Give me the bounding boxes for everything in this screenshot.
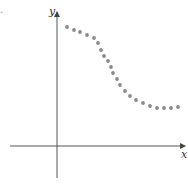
data-point: [102, 54, 106, 58]
y-axis-label: y: [48, 5, 56, 18]
data-point: [128, 94, 132, 98]
data-point: [106, 59, 110, 63]
data-point: [85, 33, 89, 37]
data-point: [155, 106, 159, 110]
data-point: [162, 106, 166, 110]
data-point: [96, 41, 100, 45]
data-point: [109, 65, 113, 69]
data-point: [78, 30, 82, 34]
data-point: [118, 83, 122, 87]
data-point: [169, 106, 173, 110]
data-point: [111, 71, 115, 75]
data-point: [141, 101, 145, 105]
data-point: [99, 48, 103, 52]
data-point: [134, 98, 138, 102]
chart: y x: [0, 0, 188, 189]
data-point: [176, 105, 180, 109]
data-point: [92, 36, 96, 40]
data-point: [72, 28, 76, 32]
data-points: [65, 25, 180, 110]
data-point: [123, 89, 127, 93]
data-point: [148, 104, 152, 108]
x-axis-label: x: [181, 148, 188, 161]
data-point: [115, 77, 119, 81]
data-point: [65, 25, 69, 29]
